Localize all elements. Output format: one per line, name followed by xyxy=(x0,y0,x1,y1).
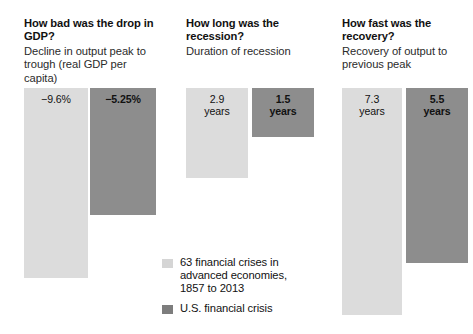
bar-label-crises-recession-value: 2.9 xyxy=(186,93,248,105)
legend-label-crises-line3: 1857 to 2013 xyxy=(180,282,332,295)
legend-label-crises-line2: advanced economies, xyxy=(180,269,332,282)
legend-swatch-us-crisis-icon xyxy=(162,305,173,314)
bar-label-crises-recovery-unit: years xyxy=(342,105,402,117)
panel-recession-duration-subtitle: Duration of recession xyxy=(186,45,322,58)
bar-label-crises-recession-unit: years xyxy=(186,105,248,117)
bar-label-us-recovery-value: 5.5 xyxy=(406,93,468,105)
bar-crises-recession-duration[interactable]: 2.9 years xyxy=(186,88,248,178)
legend-swatch-crises-icon xyxy=(162,259,173,268)
legend-label-us-crisis: U.S. financial crisis xyxy=(180,302,332,315)
bar-crises-recovery-speed[interactable]: 7.3 years xyxy=(342,88,402,315)
panel-recovery-speed-heading: How fast was the recovery? xyxy=(342,17,473,43)
bar-us-recovery-speed[interactable]: 5.5 years xyxy=(406,88,468,263)
panel-gdp-drop-heading: How bad was the drop in GDP? xyxy=(24,17,162,43)
bar-label-us-recession-unit: years xyxy=(252,105,314,117)
panel-gdp-drop: How bad was the drop in GDP? Decline in … xyxy=(24,0,156,334)
panel-gdp-drop-subtitle: Decline in output peak to trough (real G… xyxy=(24,45,160,85)
chart-legend: 63 financial crises in advanced economie… xyxy=(162,256,332,321)
bar-crises-gdp-drop[interactable]: −9.6% xyxy=(24,88,88,278)
legend-item-us-crisis[interactable]: U.S. financial crisis xyxy=(162,302,332,315)
panel-recovery-speed: How fast was the recovery? Recovery of o… xyxy=(342,0,468,334)
bar-label-us-gdp-drop: −5.25% xyxy=(90,93,156,105)
bar-label-us-recovery-unit: years xyxy=(406,105,468,117)
legend-label-crises-line1: 63 financial crises in xyxy=(180,256,332,269)
legend-item-crises[interactable]: 63 financial crises in advanced economie… xyxy=(162,256,332,296)
panel-recession-duration-heading: How long was the recession? xyxy=(186,17,324,43)
panel-recovery-speed-subtitle: Recovery of output to previous peak xyxy=(342,45,473,72)
bar-us-recession-duration[interactable]: 1.5 years xyxy=(252,88,314,137)
bar-label-crises-gdp-drop: −9.6% xyxy=(24,93,88,105)
bar-us-gdp-drop[interactable]: −5.25% xyxy=(90,88,156,215)
bar-label-us-recession-value: 1.5 xyxy=(252,93,314,105)
bar-label-crises-recovery-value: 7.3 xyxy=(342,93,402,105)
